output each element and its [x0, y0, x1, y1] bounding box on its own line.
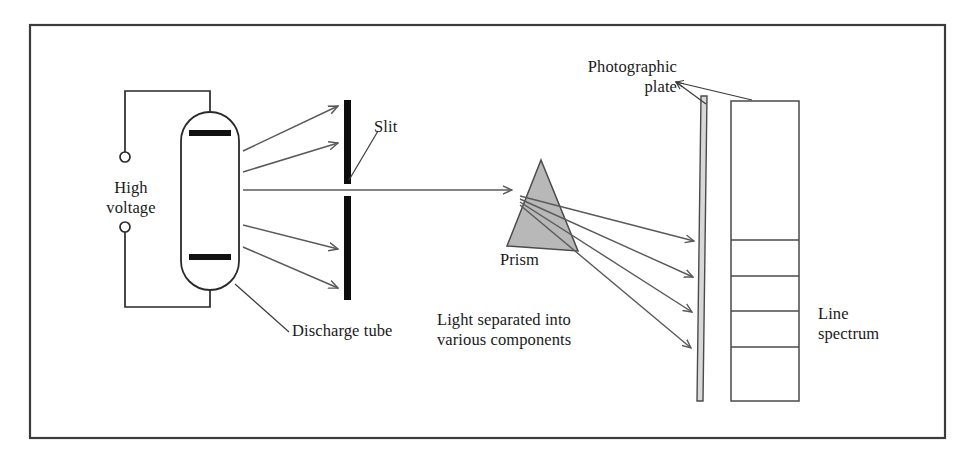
- diagram-canvas: [0, 0, 974, 463]
- slit-barrier-lower: [344, 196, 351, 300]
- top-electrode: [189, 130, 231, 136]
- prism-label: Prism: [500, 250, 539, 270]
- ray-up-far: [243, 106, 338, 151]
- ray-down-far: [243, 247, 338, 288]
- line-spectrum-figure: High voltage Discharge tube Slit Prism L…: [0, 0, 974, 463]
- terminal-top-icon: [120, 152, 130, 162]
- terminal-bottom-icon: [120, 222, 130, 232]
- line-spectrum-label: Line spectrum: [818, 304, 879, 344]
- slit-leader: [349, 131, 378, 180]
- ray-up-near: [243, 143, 338, 172]
- figure-border: [30, 25, 945, 438]
- slit-label: Slit: [374, 117, 397, 137]
- bottom-electrode: [189, 254, 231, 260]
- discharge-tube-label: Discharge tube: [292, 321, 393, 341]
- ray-down-near: [243, 225, 338, 249]
- prism: [507, 160, 578, 251]
- slit-barrier-upper: [344, 100, 351, 184]
- line-spectrum-box: [731, 101, 799, 401]
- high-voltage-label: High voltage: [86, 178, 176, 218]
- discharge-tube: [181, 112, 239, 290]
- light-separated-label: Light separated into various components: [437, 310, 571, 350]
- photographic-plate: [697, 96, 707, 401]
- leader-lines: [235, 82, 752, 332]
- photographic-plate-label: Photographic plate: [529, 57, 677, 97]
- discharge-tube-leader: [235, 284, 289, 332]
